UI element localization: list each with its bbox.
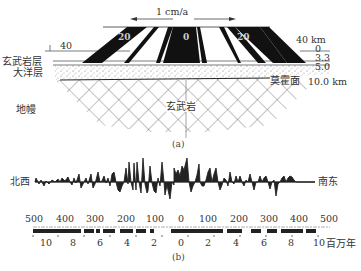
ma-tick: 8 (288, 238, 294, 248)
polarity-timescale (0, 0, 361, 271)
ma-tick: 8 (70, 238, 76, 248)
ma-tick: 6 (97, 238, 103, 248)
ma-tick: 10 (313, 238, 325, 248)
ma-tick: 6 (261, 238, 267, 248)
ma-tick: 10 (40, 238, 52, 248)
ma-tick: 4 (233, 238, 239, 248)
ma-tick: 2 (151, 238, 157, 248)
ma-tick: 2 (205, 238, 211, 248)
figure-b-caption: (b) (172, 252, 185, 262)
ma-tick: 4 (124, 238, 130, 248)
ma-tick: 0 (178, 238, 184, 248)
ma-unit-label: 百万年 (326, 238, 356, 249)
ma-scale: 10 8 6 4 2 0 2 4 6 8 10 (40, 238, 360, 250)
